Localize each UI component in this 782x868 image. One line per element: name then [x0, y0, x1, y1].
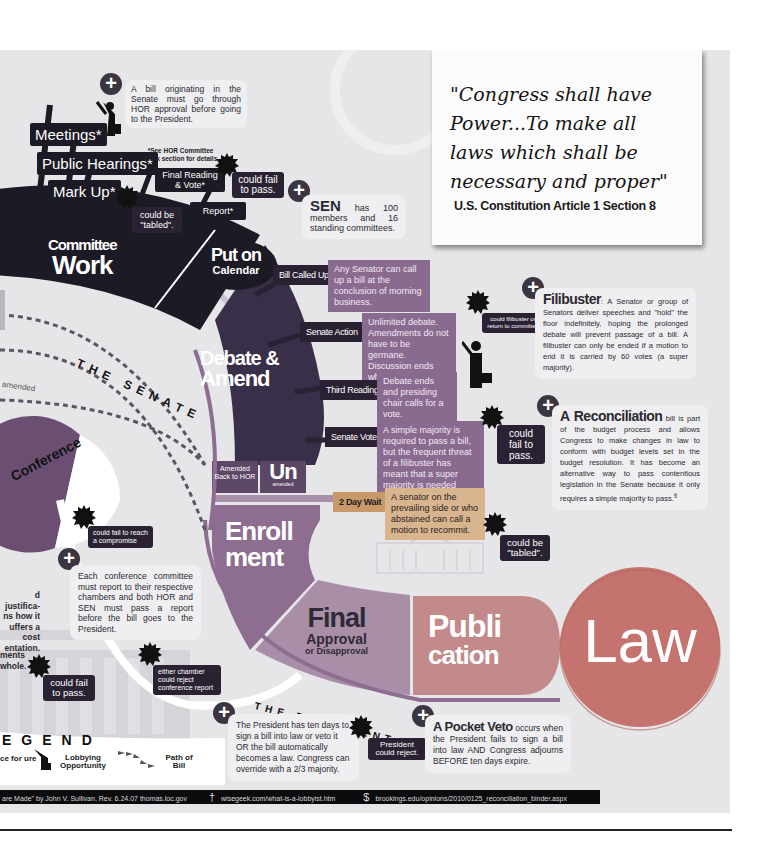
step-third-reading: Third Reading — [320, 380, 385, 400]
desc-2-day-wait: A senator on the prevailing side or who … — [385, 488, 485, 540]
fail-warning: could fail to pass. — [43, 675, 95, 701]
step-bill-called-up: Bill Called Up — [273, 265, 335, 285]
chance-for-failure-icon — [115, 185, 139, 209]
debate-amend-title: Debate & Amend — [200, 348, 279, 390]
legend-title: EGEND — [2, 732, 102, 748]
path-arrows-icon — [118, 748, 163, 770]
put-on-calendar: Put on Calendar — [195, 240, 277, 290]
lobbyist-icon — [33, 748, 51, 772]
left-fragment-note: d justifica- ns how it uffers a cost ent… — [0, 590, 40, 653]
chance-for-failure-icon — [466, 290, 490, 314]
step-senate-action: Senate Action — [300, 322, 364, 342]
step-meetings: Meetings* — [30, 123, 107, 146]
legend-item-path: Path of Bill — [163, 754, 195, 770]
legend-item-lobbying: Lobbying Opportunity — [58, 754, 108, 770]
legend-item-failure: ce for ure — [0, 755, 36, 763]
final-approval-title: Final Approval or Disapproval — [305, 605, 368, 656]
desc-third-reading: Debate ends and presiding chair calls fo… — [377, 372, 457, 424]
dagger-icon: † — [209, 791, 215, 803]
source-3: brookings.edu/opinions/2010/0125_reconci… — [375, 795, 566, 802]
tabled-warning: could be "tabled". — [500, 535, 550, 561]
divider — [0, 829, 732, 831]
step-2-day-wait: 2 Day Wait — [333, 492, 387, 512]
compromise-fail-warning: could fail to reach a compromise — [88, 526, 153, 548]
conference-note: Each conference committee must report to… — [70, 565, 201, 640]
quote-text: "Congress shall have Power...To make all… — [450, 80, 690, 196]
step-mark-up: Mark Up* — [48, 180, 121, 203]
step-report: Report* — [190, 202, 246, 220]
sources-footer: are Made" by John V. Sullivan. Rev. 6.24… — [0, 790, 600, 804]
president-reject-warning: President could reject. — [368, 738, 426, 760]
committee-footnote: *See HOR Committee Work section for deta… — [143, 147, 218, 162]
info-plus-icon[interactable]: + — [100, 73, 122, 95]
filibuster-note: Filibuster: A Senator or group of Senato… — [535, 288, 696, 379]
chance-for-failure-icon — [483, 512, 507, 536]
senate-origin-note: A bill originating in the Senate must go… — [125, 80, 247, 128]
amended-back-to-hor: Amended Back to HOR — [212, 465, 258, 481]
left-fragment-note-2: ments whole. — [0, 650, 25, 671]
source-1: are Made" by John V. Sullivan. Rev. 6.24… — [2, 795, 187, 802]
vote-fail-warning: could fail to pass. — [497, 425, 545, 464]
committee-work-title: Committee Work — [48, 237, 117, 278]
sen-note: SEN has 100 members and 16 standing comm… — [302, 195, 406, 239]
publication-title: Publi cation — [428, 610, 501, 668]
fail-warning: could fail to pass. — [232, 172, 284, 198]
infographic-panel: "Congress shall have Power...To make all… — [0, 50, 730, 813]
president-note: The President has ten days to sign a bil… — [228, 714, 359, 781]
enrollment-title: Enroll ment — [225, 518, 293, 570]
law-title: Law — [570, 610, 710, 672]
chance-for-failure-icon — [138, 642, 162, 666]
lobbyist-icon — [462, 340, 492, 390]
tabled-warning: could be "tabled". — [132, 207, 182, 233]
step-public-hearings: Public Hearings* — [37, 152, 158, 175]
unamended: Un amended — [260, 461, 306, 487]
chance-for-failure-icon — [349, 715, 373, 739]
constitution-quote-card: "Congress shall have Power...To make all… — [432, 50, 702, 245]
dollar-icon: $ — [363, 791, 369, 803]
quote-source: U.S. Constitution Article 1 Section 8 — [454, 199, 656, 213]
desc-bill-called-up: Any Senator can call up a bill at the co… — [328, 260, 430, 312]
step-senate-vote: Senate Vote — [325, 427, 383, 447]
legend: EGEND ce for ure Lobbying Opportunity Pa… — [0, 730, 225, 790]
source-2: wisegeek.com/what-is-a-lobbyist.htm — [221, 795, 335, 802]
reconciliation-note: A Reconciliation bill is part of the bud… — [552, 405, 708, 510]
pocket-veto-note: A Pocket Veto occurs when the President … — [425, 715, 571, 773]
conference-reject-warning: either chamber could reject conference r… — [153, 665, 221, 695]
